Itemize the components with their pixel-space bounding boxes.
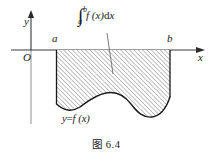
figure-caption: 图 6.4 [0,136,212,151]
figure-container: ∫ b a f (x) dx y x O a b y=f (x) 图 6.4 [0,0,212,157]
x-axis-label: x [198,52,203,63]
curve-label-fx: f (x) [73,113,90,124]
integral-expression: ∫ b a f (x) dx [78,6,114,25]
lower-bound-label-a: a [52,33,58,44]
integral-upper-limit: b [83,6,87,14]
integrand-expression: f (x) [86,10,104,21]
origin-label: O [23,52,31,63]
function-curve-label: y=f (x) [62,113,90,124]
caption-number: 6.4 [106,139,121,150]
y-axis-label: y [24,16,29,27]
differential-variable: x [109,9,114,21]
differential-d: dx [104,10,114,21]
caption-prefix: 图 [92,138,103,150]
upper-bound-label-b: b [167,33,173,44]
integral-lower-limit: a [78,18,82,26]
